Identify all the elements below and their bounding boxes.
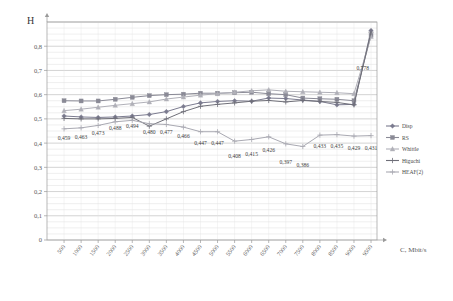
data-label: 0,397 [279,159,292,165]
line-chart: 00,10,20,30,40,50,60,70,8 50010001500200… [0,0,453,301]
data-label: 0,778 [356,65,369,71]
data-label: 0,435 [331,143,344,149]
data-label: 0,459 [58,135,71,141]
chart-container: 00,10,20,30,40,50,60,70,8 50010001500200… [0,0,453,301]
legend-label: Whittle [402,146,419,152]
y-axis-title: H [27,15,34,26]
data-label: 0,415 [245,151,258,157]
data-label: 0,386 [297,162,310,168]
y-tick-label: 0,8 [34,43,42,50]
data-label: 0,488 [109,125,122,131]
y-tick-label: 0,5 [34,115,42,122]
legend-label: HEAF(2) [402,169,423,176]
data-label: 0,480 [143,129,156,135]
data-label: 0,447 [194,140,207,146]
legend-label: RS [402,135,409,141]
y-tick-label: 0,2 [34,188,42,195]
data-label: 0,463 [75,134,88,140]
y-tick-label: 0,6 [34,91,43,98]
legend-label: Higuchi [402,158,420,164]
data-label: 0,477 [160,129,173,135]
y-tick-label: 0,1 [34,212,42,219]
y-tick-label: 0,7 [34,67,43,74]
data-label: 0,431 [365,145,378,151]
data-label: 0,433 [314,143,327,149]
y-tick-label: 0,4 [34,140,43,147]
data-label: 0,408 [228,153,241,159]
data-label: 0,426 [262,147,275,153]
data-label: 0,473 [92,130,105,136]
x-axis-title: C, Mbit/s [400,246,427,254]
y-tick-label: 0,3 [34,164,42,171]
data-label: 0,494 [126,123,139,129]
chart-legend: DispRSWhittleHiguchiHEAF(2) [383,118,447,180]
data-label: 0,447 [211,140,224,146]
y-tick-label: 0 [39,236,42,243]
data-label: 0,466 [177,133,190,139]
legend-label: Disp [402,123,413,129]
data-label: 0,429 [348,145,361,151]
